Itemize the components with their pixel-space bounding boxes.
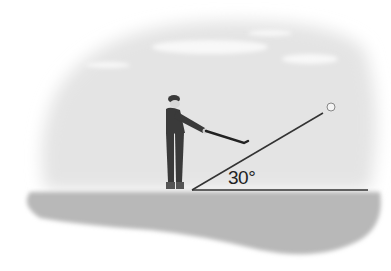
cloud xyxy=(282,54,338,64)
cloud xyxy=(248,30,292,36)
ground xyxy=(27,192,381,254)
golf-ball-icon xyxy=(327,103,335,111)
cloud xyxy=(152,40,268,54)
cloud xyxy=(86,62,130,68)
angle-label: 30° xyxy=(228,167,255,189)
scene-svg xyxy=(0,0,391,271)
